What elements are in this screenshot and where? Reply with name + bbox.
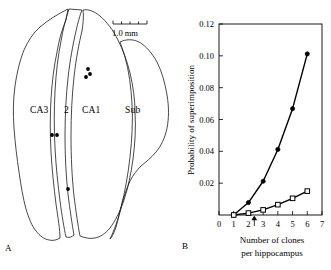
y-axis-tick-label: 0.08 (199, 83, 214, 93)
ca3-outline (13, 9, 68, 240)
y-axis-title: Probability of superimposition (186, 65, 196, 175)
open-square-series-point (231, 213, 236, 218)
superimposition-chart: 0.020.040.060.080.100.12 01234567 Probab… (180, 0, 331, 270)
x-axis-tick-labels: 01234567 (217, 219, 324, 229)
region-label-ca1: CA1 (82, 105, 101, 115)
region-label-sub: Sub (125, 105, 140, 115)
open-square-series-point (290, 196, 295, 201)
open-square-series-line (234, 191, 308, 215)
x-axis-tick-label: 0 (217, 219, 221, 229)
filled-circle-series-point (305, 52, 309, 56)
x-axis-tick-label: 7 (320, 219, 324, 229)
x-axis-tick-label: 5 (290, 219, 294, 229)
x-axis-tick-label: 2 (246, 219, 250, 229)
panel-b-letter: B (182, 241, 188, 251)
x-axis-title-line-1: Number of clones (240, 235, 305, 245)
filled-circle-series-point (290, 107, 294, 111)
open-square-series-point (276, 202, 281, 207)
y-axis-tick-label: 0.06 (199, 115, 214, 125)
y-axis-tick-label: 0.02 (199, 178, 214, 188)
figure-root: 1.0 mm CA3 2 CA1 Sub A 0.020.040.060.080… (0, 0, 331, 270)
clone-dot (66, 187, 70, 191)
y-axis-tick-label: 0.12 (199, 19, 214, 29)
x-axis-tick-label: 1 (232, 219, 236, 229)
y-axis-tick-label: 0.10 (199, 51, 214, 61)
clone-dot (50, 133, 54, 137)
scale-bar (113, 21, 147, 25)
hippocampus-outline-drawing (0, 0, 180, 270)
filled-circle-series-point (276, 147, 280, 151)
clone-dot (88, 72, 92, 76)
arrow-marker-icon (252, 216, 257, 226)
filled-circle-series-point (246, 200, 250, 204)
region-label-ca2: 2 (64, 105, 69, 115)
filled-circle-series-line (234, 54, 308, 215)
scale-bar-label: 1.0 mm (112, 28, 138, 38)
clone-dot (86, 67, 90, 71)
subiculum-outline (110, 40, 169, 239)
open-square-series-point (305, 189, 310, 194)
x-axis-title-line-2: per hippocampus (241, 248, 303, 258)
filled-circle-series-point (261, 179, 265, 183)
y-axis-tick-labels: 0.020.040.060.080.100.12 (199, 19, 215, 188)
x-axis-tick-label: 4 (276, 219, 281, 229)
clone-dot (84, 75, 88, 79)
x-axis-tick-label: 6 (305, 219, 309, 229)
y-axis-ticks (219, 24, 223, 183)
panel-a: 1.0 mm CA3 2 CA1 Sub A (0, 0, 180, 270)
annotation-layer (252, 216, 257, 226)
open-square-series-point (261, 208, 266, 213)
region-label-ca3: CA3 (30, 105, 49, 115)
x-axis-tick-label: 3 (261, 219, 265, 229)
data-series-layer (231, 52, 309, 217)
ca1-outline (71, 10, 135, 239)
panel-b: 0.020.040.060.080.100.12 01234567 Probab… (180, 0, 331, 270)
panel-a-letter: A (5, 243, 12, 253)
y-axis-tick-label: 0.04 (199, 146, 215, 156)
clone-dot (55, 133, 59, 137)
open-square-series-point (246, 211, 251, 216)
